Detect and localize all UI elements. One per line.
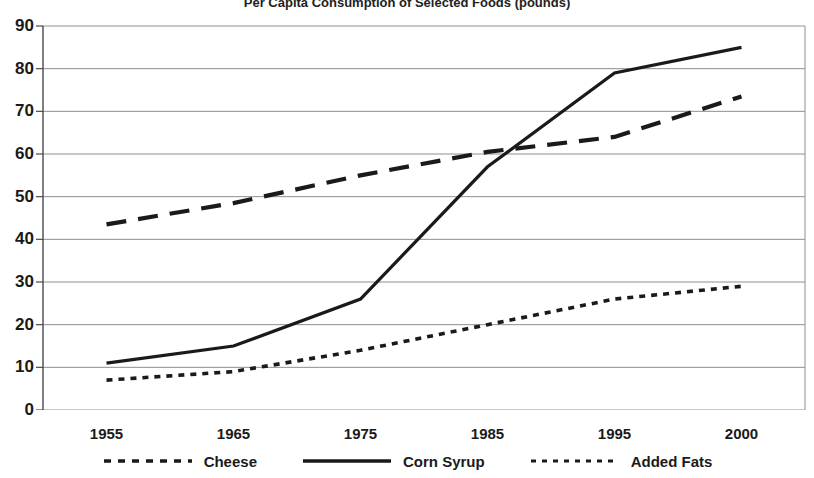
y-axis-tick-label: 70 (2, 102, 34, 119)
series-line-corn-syrup (107, 47, 742, 363)
y-axis-tick-label: 40 (2, 230, 34, 247)
chart-title-text: Per Capita Consumption of Selected Foods… (0, 0, 814, 9)
x-axis-tick-label: 2000 (697, 426, 787, 442)
dotted-line-swatch-cheese (102, 455, 194, 467)
plot-area (0, 10, 814, 410)
legend-item-cheese: Cheese (102, 453, 257, 470)
legend-item-added-fats: Added Fats (529, 453, 713, 470)
plot-svg (0, 10, 814, 410)
y-axis-tick-label: 0 (2, 401, 34, 418)
x-axis-tick-label: 1965 (189, 426, 279, 442)
line-chart: Per Capita Consumption of Selected Foods… (0, 0, 814, 478)
x-axis-tick-label: 1985 (443, 426, 533, 442)
dotted-line-swatch-added-fats (529, 455, 621, 467)
y-axis-tick-label: 60 (2, 145, 34, 162)
legend-item-corn-syrup: Corn Syrup (301, 453, 485, 470)
solid-line-swatch-corn-syrup (301, 455, 393, 467)
y-axis-tick-label: 10 (2, 358, 34, 375)
y-axis-tick-label: 80 (2, 60, 34, 77)
chart-legend: Cheese Corn Syrup Added Fats (0, 448, 814, 474)
y-axis-tick-label: 20 (2, 316, 34, 333)
y-axis-tick-label: 30 (2, 273, 34, 290)
x-axis-tick-label: 1995 (570, 426, 660, 442)
x-axis-tick-label: 1955 (62, 426, 152, 442)
series-line-cheese (107, 286, 742, 380)
x-axis-tick-label: 1975 (316, 426, 406, 442)
legend-label-corn-syrup: Corn Syrup (403, 453, 485, 470)
y-axis-tick-label: 50 (2, 188, 34, 205)
series-line-added-fats (107, 96, 742, 224)
chart-title: Per Capita Consumption of Selected Foods… (0, 0, 814, 10)
y-axis-tick-label: 90 (2, 17, 34, 34)
legend-label-added-fats: Added Fats (631, 453, 713, 470)
legend-label-cheese: Cheese (204, 453, 257, 470)
